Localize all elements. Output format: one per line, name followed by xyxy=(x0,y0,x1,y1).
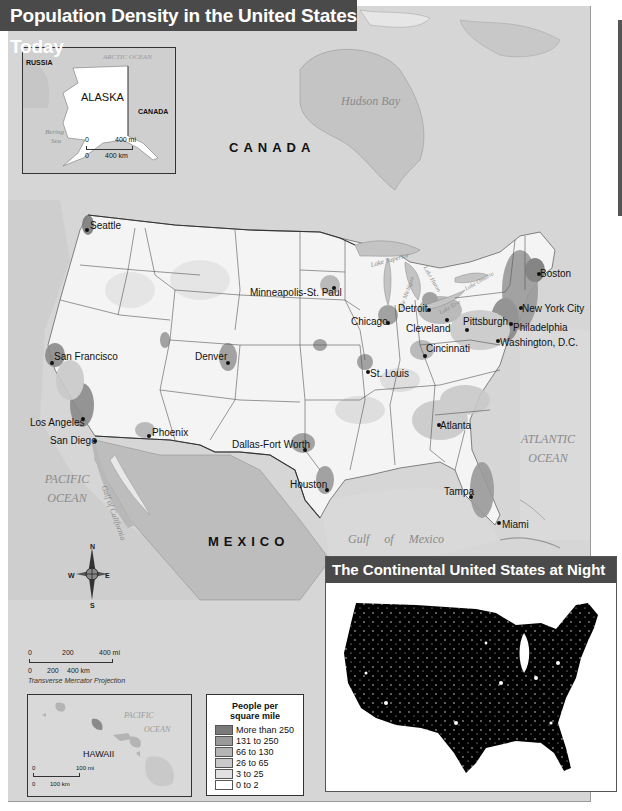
label-mexico: MEXICO xyxy=(208,534,289,549)
city-dot-pittsburgh xyxy=(465,328,469,332)
legend-item: 0 to 2 xyxy=(215,779,303,790)
page-title: Population Density in the United States … xyxy=(0,0,357,31)
label-hudson-bay: Hudson Bay xyxy=(341,94,400,109)
legend-title-line2: square mile xyxy=(207,711,303,721)
city-dot-miami xyxy=(497,521,501,525)
hawaii-label-pacific-2: OCEAN xyxy=(144,725,170,734)
alaska-label-bering-1: Bering xyxy=(45,128,64,136)
label-pacific-line1: PACIFIC xyxy=(32,472,102,487)
page: CANADA MEXICO Hudson Bay PACIFIC OCEAN A… xyxy=(0,0,622,811)
legend-item: More than 250 xyxy=(215,724,303,735)
main-scale-mi-zero: 0 xyxy=(28,649,32,656)
legend-swatch xyxy=(215,747,233,757)
compass-e: E xyxy=(105,572,110,579)
alaska-scale-mi-zero: 0 xyxy=(85,136,89,143)
city-dot-seattle xyxy=(85,228,89,232)
city-label-miami: Miami xyxy=(502,519,529,530)
alaska-scale-km: 400 km xyxy=(105,152,128,159)
label-pacific-ocean: PACIFIC OCEAN xyxy=(32,472,102,506)
city-label-denver: Denver xyxy=(195,351,227,362)
alaska-label-alaska: ALASKA xyxy=(81,91,124,103)
city-label-st-louis: St. Louis xyxy=(370,368,409,379)
city-label-pittsburgh: Pittsburgh xyxy=(463,316,508,327)
hawaii-scale-km-zero: 0 xyxy=(32,781,35,787)
city-label-houston: Houston xyxy=(290,479,327,490)
hawaii-scale-mi-zero: 0 xyxy=(32,765,35,771)
city-label-cleveland: Cleveland xyxy=(406,323,450,334)
city-label-boston: Boston xyxy=(540,268,571,279)
city-label-los-angeles: Los Angeles xyxy=(30,417,85,428)
hawaii-scale-km: 100 km xyxy=(50,781,70,787)
alaska-scale-km-zero: 0 xyxy=(85,152,89,159)
legend-item: 3 to 25 xyxy=(215,768,303,779)
city-label-tampa: Tampa xyxy=(444,486,474,497)
alaska-label-bering-2: Sea xyxy=(51,137,61,145)
legend-swatch xyxy=(215,736,233,746)
legend-label: 66 to 130 xyxy=(236,747,274,757)
city-label-san-francisco: San Francisco xyxy=(54,351,118,362)
alaska-scale-mi: 400 mi xyxy=(115,136,136,143)
alaska-label-arctic: ARCTIC OCEAN xyxy=(103,53,152,61)
main-scale-bar xyxy=(29,659,113,663)
legend-label: 26 to 65 xyxy=(236,758,269,768)
legend-swatch xyxy=(215,725,233,735)
city-dot-cincinnati xyxy=(423,354,427,358)
main-scale-km-mid: 200 xyxy=(47,667,59,674)
night-lights-map-svg xyxy=(326,583,614,789)
legend-swatch xyxy=(215,769,233,779)
city-label-cincinnati: Cincinnati xyxy=(426,343,470,354)
legend-swatch xyxy=(215,758,233,768)
legend-item: 66 to 130 xyxy=(215,746,303,757)
city-label-chicago: Chicago xyxy=(351,316,388,327)
compass-w: W xyxy=(68,572,75,579)
night-inset-title: The Continental United States at Night xyxy=(326,557,616,583)
legend-label: 0 to 2 xyxy=(236,780,259,790)
main-scale-km-zero: 0 xyxy=(28,667,32,674)
label-gulf-of-mexico: Gulf of Mexico xyxy=(348,532,444,547)
city-label-atlanta: Atlanta xyxy=(440,420,471,431)
main-scale-km: 400 km xyxy=(67,667,90,674)
city-label-dallas: Dallas-Fort Worth xyxy=(232,439,310,450)
alaska-label-canada: CANADA xyxy=(138,108,168,115)
page-edge-tab xyxy=(618,20,622,216)
city-dot-cleveland xyxy=(445,318,449,322)
label-atlantic-line1: ATLANTIC xyxy=(513,432,583,447)
legend-item: 131 to 250 xyxy=(215,735,303,746)
city-label-new-york: New York City xyxy=(522,303,584,314)
hawaii-scale-mi: 100 mi xyxy=(76,765,94,771)
main-scale-mi-mid: 200 xyxy=(62,649,74,656)
legend-item: 26 to 65 xyxy=(215,757,303,768)
projection-note: Transverse Mercator Projection xyxy=(28,677,125,684)
label-canada: CANADA xyxy=(229,140,315,155)
legend-label: 3 to 25 xyxy=(236,769,264,779)
hawaii-scale-bar xyxy=(33,773,80,777)
city-label-seattle: Seattle xyxy=(90,220,121,231)
hawaii-label-pacific-1: PACIFIC xyxy=(124,711,154,720)
city-label-washington: Washington, D.C. xyxy=(500,337,578,348)
city-label-phoenix: Phoenix xyxy=(152,427,188,438)
city-dot-phoenix xyxy=(147,434,151,438)
alaska-inset: RUSSIA ARCTIC OCEAN ALASKA CANADA Bering… xyxy=(22,47,176,174)
legend-swatch xyxy=(215,780,233,790)
hawaii-inset: HAWAII PACIFIC OCEAN 0 100 mi 0 100 km xyxy=(27,694,192,797)
compass-n: N xyxy=(90,543,95,550)
city-label-san-diego: San Diego xyxy=(50,435,97,446)
compass-rose-icon xyxy=(68,544,118,606)
label-pacific-line2: OCEAN xyxy=(32,491,102,506)
compass-s: S xyxy=(90,602,95,609)
legend-title-line1: People per xyxy=(207,701,303,711)
city-label-philadelphia: Philadelphia xyxy=(513,322,568,333)
legend: People per square mile More than 250 131… xyxy=(206,694,304,796)
city-label-minneapolis: Minneapolis-St. Paul xyxy=(250,287,342,298)
main-scale-mi: 400 mi xyxy=(99,649,120,656)
alaska-scale-bar xyxy=(86,146,133,150)
label-atlantic-line2: OCEAN xyxy=(513,451,583,466)
legend-label: More than 250 xyxy=(236,725,294,735)
city-label-detroit: Detroit xyxy=(398,303,427,314)
city-dot-detroit xyxy=(427,308,431,312)
label-atlantic-ocean: ATLANTIC OCEAN xyxy=(513,432,583,466)
legend-label: 131 to 250 xyxy=(236,736,279,746)
hawaii-label: HAWAII xyxy=(83,749,114,759)
night-lights-inset: The Continental United States at Night xyxy=(325,556,617,792)
